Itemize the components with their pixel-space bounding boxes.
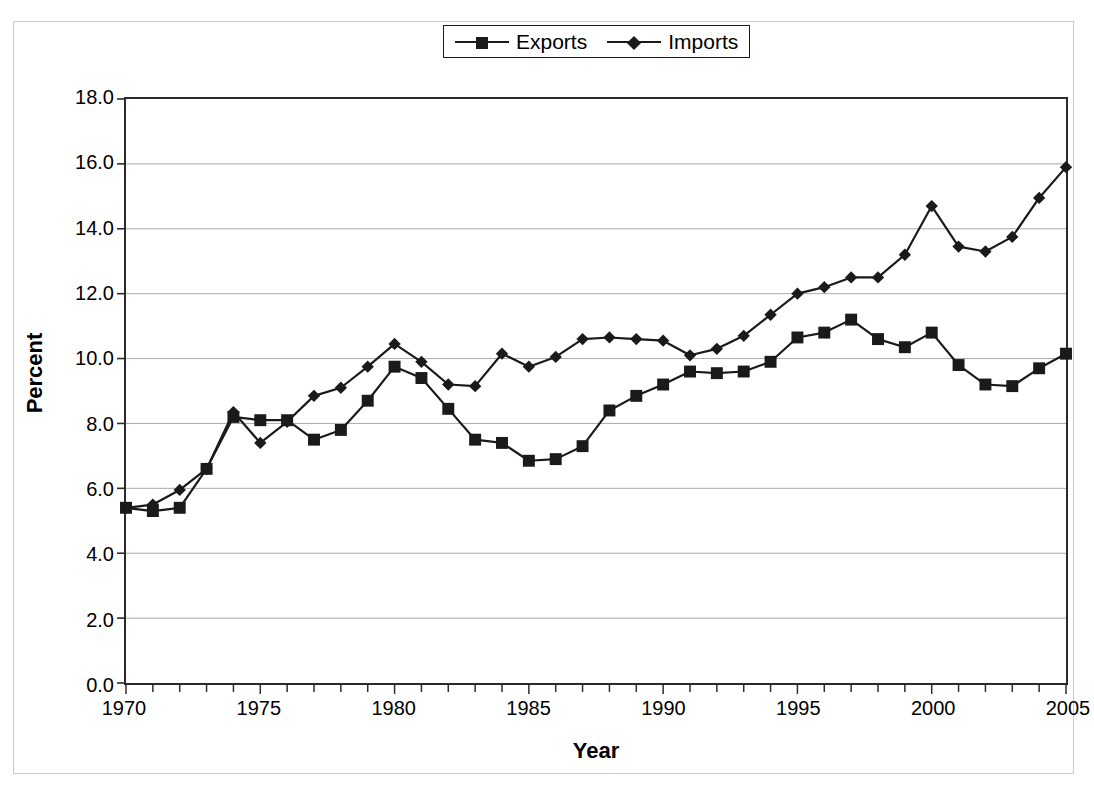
y-tick-label: 10.0	[44, 348, 114, 368]
data-point-marker	[1060, 348, 1072, 360]
data-point-marker	[496, 437, 508, 449]
series-line	[126, 320, 1066, 511]
data-point-marker	[684, 366, 696, 378]
y-axis-tick-labels: 0.02.04.06.08.010.012.014.016.018.0	[40, 97, 114, 685]
y-tick-label: 8.0	[44, 414, 114, 434]
data-point-marker	[899, 341, 911, 353]
x-tick-label: 1975	[219, 698, 299, 718]
data-point-marker	[711, 343, 723, 355]
data-point-marker	[415, 372, 427, 384]
data-point-marker	[952, 240, 964, 252]
y-tick-label: 0.0	[44, 675, 114, 695]
data-point-marker	[979, 245, 991, 257]
legend-label-exports: Exports	[516, 31, 587, 52]
data-point-marker	[603, 331, 615, 343]
data-point-marker	[657, 335, 669, 347]
plot-area	[124, 97, 1068, 685]
data-point-marker	[174, 502, 186, 514]
data-point-marker	[738, 366, 750, 378]
data-point-marker	[1006, 380, 1018, 392]
y-tick-label: 18.0	[44, 87, 114, 107]
y-tick-label: 12.0	[44, 283, 114, 303]
data-point-marker	[523, 361, 535, 373]
data-point-marker	[576, 333, 588, 345]
legend-entry-imports: Imports	[607, 31, 738, 52]
data-point-marker	[872, 333, 884, 345]
data-point-marker	[603, 405, 615, 417]
data-point-marker	[577, 440, 589, 452]
y-axis-title: Percent	[22, 293, 48, 453]
x-tick-label: 2000	[893, 698, 973, 718]
x-axis-tick-labels: 19701975198019851990199520002005	[124, 698, 1068, 724]
data-point-marker	[335, 424, 347, 436]
data-point-marker	[254, 414, 266, 426]
data-point-marker	[845, 314, 857, 326]
data-point-marker	[389, 361, 401, 373]
y-tick-label: 2.0	[44, 610, 114, 630]
data-point-marker	[630, 390, 642, 402]
data-point-marker	[550, 453, 562, 465]
data-point-marker	[442, 403, 454, 415]
data-point-marker	[1006, 231, 1018, 243]
legend-marker-square-icon	[455, 34, 509, 50]
data-point-marker	[953, 359, 965, 371]
x-tick-label: 1995	[758, 698, 838, 718]
data-point-marker	[818, 327, 830, 339]
data-point-marker	[657, 379, 669, 391]
x-tick-label: 2005	[1028, 698, 1094, 718]
data-point-marker	[550, 351, 562, 363]
x-tick-label: 1980	[354, 698, 434, 718]
data-point-marker	[1033, 362, 1045, 374]
data-series-layer	[126, 99, 1066, 683]
data-point-marker	[630, 333, 642, 345]
y-tick-label: 6.0	[44, 479, 114, 499]
data-point-marker	[362, 395, 374, 407]
chart-legend: Exports Imports	[443, 25, 750, 58]
data-point-marker	[684, 349, 696, 361]
x-tick-label: 1990	[623, 698, 703, 718]
data-point-marker	[845, 271, 857, 283]
x-tick-label: 1985	[489, 698, 569, 718]
data-point-marker	[979, 379, 991, 391]
data-point-marker	[818, 281, 830, 293]
legend-label-imports: Imports	[668, 31, 738, 52]
y-tick-label: 4.0	[44, 544, 114, 564]
legend-entry-exports: Exports	[455, 31, 587, 52]
x-axis-title: Year	[124, 738, 1068, 764]
data-point-marker	[469, 434, 481, 446]
data-point-marker	[926, 327, 938, 339]
data-point-marker	[308, 434, 320, 446]
data-point-marker	[765, 356, 777, 368]
data-point-marker	[711, 367, 723, 379]
y-tick-label: 16.0	[44, 152, 114, 172]
data-point-marker	[523, 455, 535, 467]
data-point-marker	[926, 200, 938, 212]
legend-marker-diamond-icon	[607, 34, 661, 50]
y-tick-label: 14.0	[44, 218, 114, 238]
x-tick-label: 1970	[84, 698, 164, 718]
chart-figure: Exports Imports 0.02.04.06.08.010.012.01…	[0, 0, 1094, 797]
series-exports	[120, 314, 1072, 517]
data-point-marker	[791, 332, 803, 344]
